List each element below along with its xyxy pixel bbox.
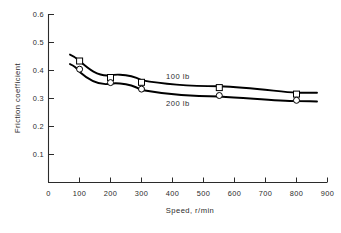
x-axis-tick-labels: 0 100 200 300 400 500 600 700 800 900 xyxy=(46,189,334,198)
data-point-100lb-300 xyxy=(139,79,145,85)
x-tick-label-400: 400 xyxy=(166,189,179,198)
x-tick-label-300: 300 xyxy=(135,189,148,198)
y-tick-label-0.3: 0.3 xyxy=(33,94,44,103)
x-tick-label-100: 100 xyxy=(73,189,86,198)
chart-plot-area: 0.6 0.5 0.4 0.3 0.2 0.1 0 100 200 300 40… xyxy=(0,0,341,233)
data-point-100lb-800 xyxy=(294,91,300,97)
data-point-100lb-550 xyxy=(216,85,222,91)
data-point-200lb-200 xyxy=(108,80,114,86)
y-tick-label-0.4: 0.4 xyxy=(33,66,44,75)
data-point-200lb-300 xyxy=(139,86,145,92)
series-line-100lb xyxy=(70,55,317,93)
y-axis-title: Friction coefficient xyxy=(13,63,22,133)
data-point-100lb-100 xyxy=(77,58,83,64)
x-tick-label-900: 900 xyxy=(321,189,334,198)
series-annotation-200lb: 200 lb xyxy=(166,99,190,108)
x-tick-label-0: 0 xyxy=(46,189,50,198)
y-axis-ticks xyxy=(49,15,55,155)
x-tick-label-200: 200 xyxy=(104,189,117,198)
x-tick-label-700: 700 xyxy=(259,189,272,198)
data-point-200lb-550 xyxy=(216,93,222,99)
y-tick-label-0.2: 0.2 xyxy=(33,122,44,131)
y-tick-label-0.5: 0.5 xyxy=(33,38,44,47)
x-tick-label-600: 600 xyxy=(228,189,241,198)
x-tick-label-500: 500 xyxy=(197,189,210,198)
y-axis-tick-labels: 0.6 0.5 0.4 0.3 0.2 0.1 xyxy=(33,10,44,159)
x-tick-label-800: 800 xyxy=(290,189,303,198)
x-axis-ticks xyxy=(80,178,328,183)
chart-figure: 0.6 0.5 0.4 0.3 0.2 0.1 0 100 200 300 40… xyxy=(0,0,341,233)
y-tick-label-0.1: 0.1 xyxy=(33,150,44,159)
data-point-200lb-800 xyxy=(294,97,300,103)
y-tick-label-0.6: 0.6 xyxy=(33,10,44,19)
x-axis-title: Speed, r/min xyxy=(166,206,214,215)
series-annotation-100lb: 100 lb xyxy=(166,72,190,81)
data-point-200lb-100 xyxy=(77,66,83,72)
